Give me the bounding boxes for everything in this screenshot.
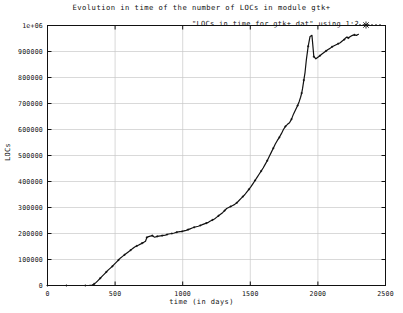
data-point: [46, 284, 48, 286]
plot-area: [0, 0, 403, 313]
data-point: [171, 232, 173, 234]
legend-entry-label: "LOCs in time for gtk+.dat" using 1:2: [192, 20, 359, 28]
y-tick-label: 0: [3, 282, 43, 290]
y-tick-label: 100000: [3, 256, 43, 264]
y-tick-label: 600000: [3, 126, 43, 134]
y-tick-label: 200000: [3, 230, 43, 238]
data-point: [303, 79, 305, 81]
data-point: [65, 284, 67, 286]
x-tick-label: 1500: [230, 290, 270, 298]
y-tick-label: 500000: [3, 152, 43, 160]
x-tick-label: 500: [95, 290, 135, 298]
data-point: [84, 284, 86, 286]
y-tick-label: 1e+06: [3, 22, 43, 30]
y-tick-label: 900000: [3, 48, 43, 56]
x-tick-label: 2000: [298, 290, 338, 298]
y-tick-label: 300000: [3, 204, 43, 212]
data-series-points: [46, 34, 355, 287]
y-tick-label: 400000: [3, 178, 43, 186]
y-tick-label: 700000: [3, 100, 43, 108]
y-tick-label: 800000: [3, 74, 43, 82]
legend-point-marker: [363, 22, 370, 29]
plot-svg: [0, 0, 403, 313]
x-axis-label: time (in days): [0, 298, 403, 306]
gridlines: [48, 26, 386, 286]
chart-screenshot: Evolution in time of the number of LOCs …: [0, 0, 403, 313]
data-point: [307, 45, 309, 47]
x-tick-label: 0: [28, 290, 68, 298]
data-point: [161, 234, 163, 236]
x-tick-label: 2500: [366, 290, 403, 298]
data-series-line: [48, 34, 359, 285]
x-tick-label: 1000: [163, 290, 203, 298]
